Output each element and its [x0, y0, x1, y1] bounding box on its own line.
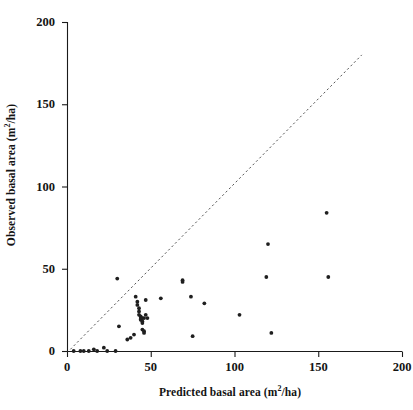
data-point: [269, 331, 273, 335]
one-to-one-reference-line: [70, 55, 361, 349]
data-point: [140, 321, 144, 325]
data-point: [264, 275, 268, 279]
data-point: [87, 349, 91, 353]
data-point: [105, 349, 109, 353]
data-point: [159, 296, 163, 300]
data-point: [146, 316, 150, 320]
data-point: [137, 306, 141, 310]
data-point: [117, 324, 121, 328]
data-point: [129, 336, 133, 340]
data-point: [132, 333, 136, 337]
scatter-plot-figure: Observed basal area (m2/ha) Predicted ba…: [0, 0, 413, 410]
scatter-series-0: [72, 211, 330, 353]
data-point: [135, 300, 139, 304]
data-point: [82, 349, 86, 353]
data-point: [102, 346, 106, 350]
data-point: [238, 313, 242, 317]
data-point: [266, 242, 270, 246]
data-point: [144, 298, 148, 302]
data-point: [79, 349, 83, 353]
data-point: [142, 316, 146, 320]
data-point: [95, 349, 99, 353]
data-point: [326, 275, 330, 279]
data-point: [125, 338, 129, 342]
data-point: [72, 349, 76, 353]
data-point: [325, 211, 329, 215]
plot-canvas: [0, 0, 413, 410]
data-point: [181, 278, 185, 282]
data-point: [134, 295, 138, 299]
data-point: [191, 334, 195, 338]
data-point: [189, 295, 193, 299]
data-point: [142, 331, 146, 335]
data-point: [202, 301, 206, 305]
data-point: [92, 347, 96, 351]
data-point: [137, 310, 141, 314]
data-point: [114, 349, 118, 353]
data-point: [135, 303, 139, 307]
data-point: [115, 277, 119, 281]
data-point: [144, 313, 148, 317]
